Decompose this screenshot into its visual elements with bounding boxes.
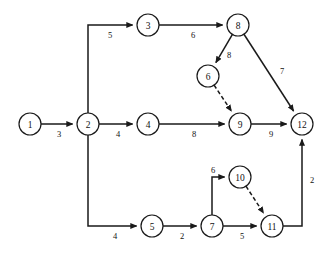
edge-weight-4-to-9: 8 <box>192 129 196 139</box>
node-label-10: 10 <box>235 173 245 183</box>
node-label-9: 9 <box>238 120 243 130</box>
node-label-2: 2 <box>86 120 91 130</box>
edge-weight-3-to-8: 6 <box>191 30 195 40</box>
edge-weight-9-to-12: 9 <box>269 129 273 139</box>
node-7[interactable]: 7 <box>201 215 223 237</box>
edge-2-to-5 <box>88 135 137 226</box>
edge-labels-layer: 3564887942652 <box>57 30 314 241</box>
node-9[interactable]: 9 <box>229 113 251 135</box>
edge-11-to-12 <box>283 140 302 227</box>
node-2[interactable]: 2 <box>77 113 99 135</box>
node-label-1: 1 <box>28 120 33 130</box>
edge-weight-2-to-3: 5 <box>108 30 112 40</box>
edge-weight-1-to-2: 3 <box>57 129 61 139</box>
node-label-12: 12 <box>297 120 307 130</box>
edge-weight-7-to-11: 5 <box>240 231 244 241</box>
edge-8-to-12 <box>244 34 294 111</box>
node-label-5: 5 <box>150 222 155 232</box>
edge-weight-2-to-4: 4 <box>116 129 121 139</box>
node-12[interactable]: 12 <box>291 113 313 135</box>
edge-weight-8-to-12: 7 <box>280 66 284 76</box>
edge-weight-8-to-6: 8 <box>227 50 231 60</box>
node-label-7: 7 <box>210 222 215 232</box>
node-11[interactable]: 11 <box>261 215 283 237</box>
network-diagram-svg: 3564887942652 123456789101112 <box>0 0 326 254</box>
node-label-6: 6 <box>206 72 211 82</box>
node-label-11: 11 <box>267 222 276 232</box>
edge-7-to-10 <box>212 177 225 215</box>
node-6[interactable]: 6 <box>197 65 219 87</box>
node-3[interactable]: 3 <box>137 14 159 36</box>
node-label-4: 4 <box>146 120 151 130</box>
node-8[interactable]: 8 <box>227 14 249 36</box>
network-diagram-canvas: 3564887942652 123456789101112 <box>0 0 326 254</box>
edge-6-to-9 <box>214 85 231 111</box>
edge-weight-11-to-12: 2 <box>310 175 314 185</box>
node-4[interactable]: 4 <box>137 113 159 135</box>
node-10[interactable]: 10 <box>229 166 251 188</box>
node-label-8: 8 <box>236 21 241 31</box>
edge-weight-2-to-5: 4 <box>113 231 118 241</box>
node-1[interactable]: 1 <box>19 113 41 135</box>
edge-weight-7-to-10: 6 <box>211 165 215 175</box>
node-5[interactable]: 5 <box>141 215 163 237</box>
edge-10-to-11 <box>246 186 264 213</box>
node-label-3: 3 <box>146 21 151 31</box>
nodes-layer: 123456789101112 <box>19 14 313 237</box>
edge-weight-5-to-7: 2 <box>180 231 184 241</box>
